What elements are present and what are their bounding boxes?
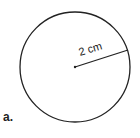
figure-label: a. [3,110,13,124]
circle-diagram: 2 cm a. [0,0,140,138]
center-point [74,66,76,68]
radius-label: 2 cm [77,39,103,57]
